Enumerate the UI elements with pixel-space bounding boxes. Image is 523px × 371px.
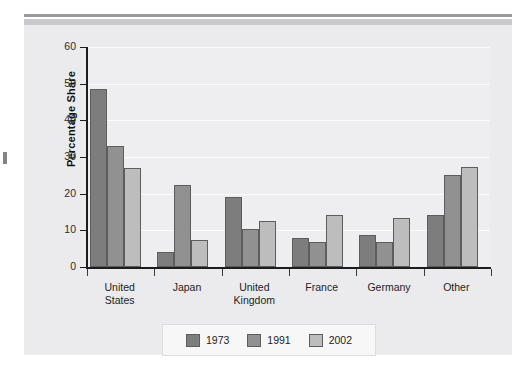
x-axis-category-label: Other [423, 281, 490, 294]
legend-label: 1973 [206, 334, 229, 346]
bar-1973-germany [359, 235, 376, 267]
bar-1973-united-states [90, 89, 107, 267]
chart-panel: Percentage Share 0102030405060 United St… [24, 25, 512, 355]
y-axis-tick-label: 60 [50, 40, 76, 52]
gridline [86, 120, 490, 121]
bar-1991-japan [174, 185, 191, 268]
legend-swatch-icon [247, 334, 261, 347]
x-axis-tick-mark [356, 269, 357, 276]
bar-1991-united-states [107, 146, 124, 267]
bar-2002-france [326, 215, 343, 267]
left-margin-artifact-mark [3, 152, 7, 164]
bar-1991-other [444, 175, 461, 267]
bar-1991-france [309, 242, 326, 267]
chart-legend: 197319912002 [162, 324, 376, 356]
bar-2002-germany [393, 218, 410, 268]
y-axis-tick-mark [80, 84, 86, 85]
y-axis-tick-label: 10 [50, 223, 76, 235]
legend-label: 2002 [329, 334, 352, 346]
legend-swatch-icon [309, 334, 323, 347]
bar-1973-japan [157, 252, 174, 267]
x-axis-category-label: United Kingdom [221, 281, 288, 307]
bar-1991-united-kingdom [242, 229, 259, 268]
y-axis-line [86, 47, 88, 268]
bar-1973-united-kingdom [225, 197, 242, 267]
y-axis-tick-label: 30 [50, 150, 76, 162]
gridline [86, 47, 490, 48]
bar-2002-other [461, 167, 478, 267]
y-axis-tick-mark [80, 194, 86, 195]
x-axis-tick-mark [154, 269, 155, 276]
gridline [86, 84, 490, 85]
x-axis-tick-mark [424, 269, 425, 276]
x-axis-tick-mark [289, 269, 290, 276]
x-axis-category-label: France [288, 281, 355, 294]
x-axis-tick-mark [222, 269, 223, 276]
bar-1973-france [292, 238, 309, 267]
y-axis-tick-mark [80, 120, 86, 121]
x-axis-category-label: United States [86, 281, 153, 307]
legend-item-1973: 1973 [186, 334, 229, 347]
bar-2002-united-kingdom [259, 221, 276, 267]
y-axis-tick-label: 50 [50, 77, 76, 89]
legend-label: 1991 [267, 334, 290, 346]
y-axis-tick-label: 0 [50, 260, 76, 272]
top-divider-rule-dark [24, 14, 512, 17]
x-axis-category-label: Germany [355, 281, 422, 294]
legend-item-2002: 2002 [309, 334, 352, 347]
x-axis-category-label: Japan [153, 281, 220, 294]
y-axis-tick-label: 40 [50, 113, 76, 125]
y-axis-tick-mark [80, 267, 86, 268]
y-axis-tick-mark [80, 47, 86, 48]
x-axis-tick-mark [491, 269, 492, 276]
x-axis-tick-mark [87, 269, 88, 276]
bar-2002-united-states [124, 168, 141, 267]
y-axis-tick-labels: 0102030405060 [44, 47, 76, 268]
bar-1991-germany [376, 242, 393, 267]
bar-1973-other [427, 215, 444, 267]
y-axis-tick-label: 20 [50, 187, 76, 199]
bar-2002-japan [191, 240, 208, 268]
y-axis-tick-mark [80, 157, 86, 158]
legend-swatch-icon [186, 334, 200, 347]
legend-item-1991: 1991 [247, 334, 290, 347]
gridline [86, 157, 490, 158]
gridline [86, 194, 490, 195]
y-axis-tick-mark [80, 230, 86, 231]
